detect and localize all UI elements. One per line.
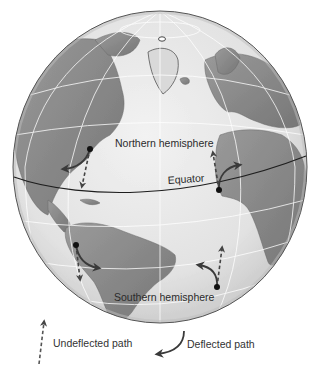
globe-illustration <box>0 0 314 374</box>
globe <box>13 11 307 323</box>
coriolis-globe-diagram: Northern hemisphere Equator Southern hem… <box>0 0 314 374</box>
north-pole-marker <box>159 37 166 41</box>
equator-label: Equator <box>167 172 204 185</box>
origin-dot <box>87 146 93 152</box>
legend-undeflected-icon <box>39 322 44 364</box>
northern-hemisphere-label: Northern hemisphere <box>115 138 214 149</box>
origin-dot <box>214 284 220 290</box>
legend-deflected-icon <box>158 331 184 354</box>
legend-deflected-label: Deflected path <box>187 339 255 350</box>
origin-dot <box>73 242 79 248</box>
origin-dot <box>216 187 222 193</box>
southern-hemisphere-label: Southern hemisphere <box>114 292 214 303</box>
legend-undeflected-label: Undeflected path <box>53 338 132 349</box>
